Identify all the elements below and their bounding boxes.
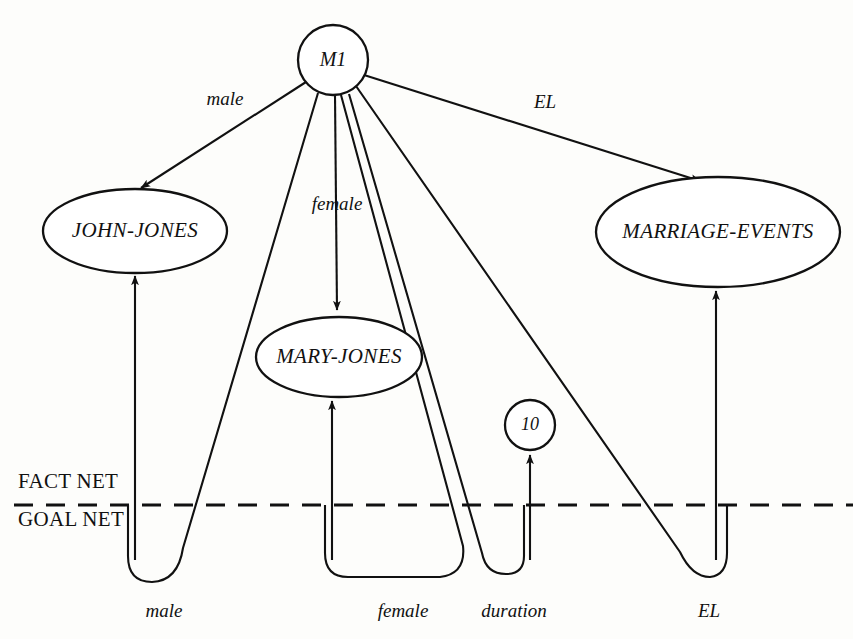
node-mary-jones-label: MARY-JONES: [275, 344, 402, 368]
node-ten[interactable]: 10: [505, 400, 555, 450]
node-john-jones-label: JOHN-JONES: [72, 218, 199, 242]
edge-label-female-goal: female: [378, 600, 429, 621]
node-john-jones[interactable]: JOHN-JONES: [43, 189, 227, 273]
divider-caption-group: FACT NET GOAL NET: [18, 469, 124, 531]
goal-strand-el: [356, 86, 727, 577]
node-marriage-events-label: MARRIAGE-EVENTS: [621, 219, 814, 243]
fact-net-label-group: male female EL: [207, 88, 557, 214]
goal-net-label: GOAL NET: [18, 507, 124, 531]
node-m1[interactable]: M1: [298, 25, 368, 95]
edge-label-male-goal: male: [146, 600, 183, 621]
node-marriage-events[interactable]: MARRIAGE-EVENTS: [596, 177, 840, 287]
node-ten-label: 10: [521, 414, 539, 434]
semantic-network-diagram: M1 JOHN-JONES MARY-JONES MARRIAGE-EVENTS…: [0, 0, 853, 639]
node-group: M1 JOHN-JONES MARY-JONES MARRIAGE-EVENTS…: [43, 25, 840, 450]
node-m1-label: M1: [319, 48, 347, 70]
edge-label-duration-goal: duration: [481, 600, 546, 621]
diagram-canvas: M1 JOHN-JONES MARY-JONES MARRIAGE-EVENTS…: [0, 0, 853, 639]
edge-m1-to-marriage-events: [364, 75, 700, 181]
node-mary-jones[interactable]: MARY-JONES: [256, 317, 422, 397]
goal-net-label-group: male female duration EL: [146, 600, 721, 621]
edge-label-male-fact: male: [207, 88, 244, 109]
edge-label-el-fact: EL: [533, 91, 556, 112]
fact-net-label: FACT NET: [18, 469, 118, 493]
edge-label-el-goal: EL: [697, 600, 720, 621]
fact-net-edge-group: [141, 75, 700, 310]
edge-label-female-fact: female: [312, 193, 363, 214]
